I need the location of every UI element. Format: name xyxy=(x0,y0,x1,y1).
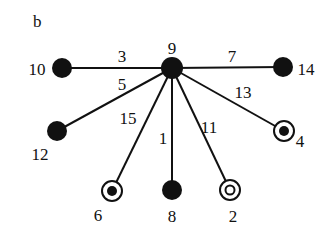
filled-node-icon xyxy=(273,57,293,77)
edge-9-4 xyxy=(172,68,284,131)
edge-9-14 xyxy=(172,67,283,68)
nodes-group xyxy=(47,57,294,201)
edge-weight-label: 15 xyxy=(120,109,137,128)
star-graph-diagram: b 3751315111 10141268249 xyxy=(0,0,327,238)
node-9 xyxy=(161,57,183,79)
node-label: 6 xyxy=(94,206,103,225)
node-label: 9 xyxy=(168,39,177,58)
inner-dot-icon xyxy=(279,126,289,136)
edge-weight-label: 3 xyxy=(118,47,127,66)
node-label: 8 xyxy=(168,207,177,226)
edge-weight-label: 1 xyxy=(159,129,168,148)
edge-labels-group: 3751315111 xyxy=(118,47,252,148)
panel-label: b xyxy=(33,12,42,31)
edge-weight-label: 5 xyxy=(118,75,127,94)
edge-9-12 xyxy=(57,68,172,131)
node-label: 12 xyxy=(32,145,49,164)
filled-node-icon xyxy=(52,58,72,78)
edge-weight-label: 13 xyxy=(235,83,252,102)
node-label: 14 xyxy=(298,60,316,79)
node-4 xyxy=(274,121,294,141)
node-label: 2 xyxy=(229,207,238,226)
node-label: 10 xyxy=(29,60,46,79)
filled-node-icon xyxy=(162,180,182,200)
edge-weight-label: 7 xyxy=(228,47,237,66)
edge-weight-label: 11 xyxy=(201,118,217,137)
node-8 xyxy=(162,180,182,200)
node-12 xyxy=(47,121,67,141)
inner-dot-icon xyxy=(107,186,117,196)
filled-node-icon xyxy=(47,121,67,141)
node-2 xyxy=(220,180,240,200)
filled-node-icon xyxy=(161,57,183,79)
node-label: 4 xyxy=(296,132,305,151)
node-10 xyxy=(52,58,72,78)
node-6 xyxy=(102,181,122,201)
inner-ring-icon xyxy=(226,186,235,195)
node-14 xyxy=(273,57,293,77)
